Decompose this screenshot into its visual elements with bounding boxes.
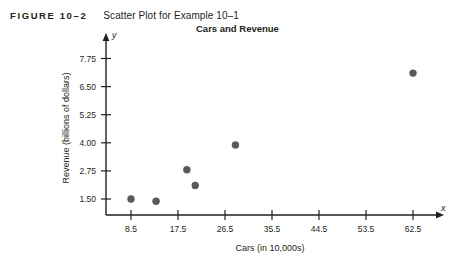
x-tick-label: 62.5 bbox=[405, 224, 422, 234]
y-axis-arrow bbox=[103, 33, 110, 41]
x-tick-label: 26.5 bbox=[217, 224, 234, 234]
x-tick-label: 35.5 bbox=[264, 224, 281, 234]
y-tick-label: 1.50 bbox=[62, 194, 96, 204]
data-point bbox=[183, 166, 190, 173]
data-point bbox=[409, 69, 416, 76]
figure-container: FIGURE 10–2 Scatter Plot for Example 10–… bbox=[0, 0, 459, 264]
x-tick-label: 8.5 bbox=[125, 224, 137, 234]
data-point bbox=[192, 182, 199, 189]
data-point bbox=[127, 195, 134, 202]
x-tick-label: 53.5 bbox=[358, 224, 375, 234]
y-tick-label: 4.00 bbox=[62, 138, 96, 148]
x-axis-arrow bbox=[436, 212, 444, 219]
y-tick-label: 7.75 bbox=[62, 54, 96, 64]
axes-group bbox=[103, 33, 444, 218]
y-tick-label: 6.50 bbox=[62, 82, 96, 92]
x-tick-label: 44.5 bbox=[311, 224, 328, 234]
data-point-markers bbox=[127, 69, 416, 205]
data-point bbox=[152, 198, 159, 205]
x-tick-label: 17.5 bbox=[170, 224, 187, 234]
y-tick-label: 2.75 bbox=[62, 166, 96, 176]
data-point bbox=[232, 141, 239, 148]
y-tick-label: 5.25 bbox=[62, 110, 96, 120]
